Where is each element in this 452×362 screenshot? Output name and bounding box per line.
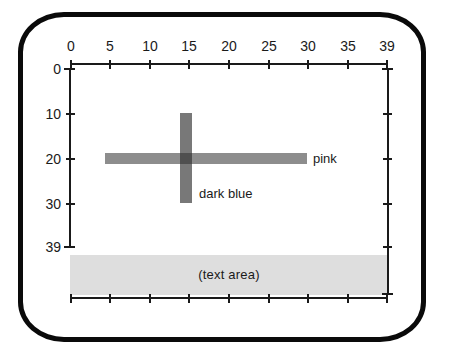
- left-axis-tick-label: 0: [27, 61, 61, 77]
- text-area-band: (text area): [70, 255, 388, 295]
- right-axis-tick: [383, 158, 392, 160]
- right-axis-tick: [383, 113, 392, 115]
- right-axis-line: [387, 68, 389, 295]
- top-axis-tick: [347, 60, 349, 69]
- bottom-axis-tick: [188, 294, 190, 303]
- left-axis-tick-label: 20: [27, 151, 61, 167]
- top-axis-tick-label: 20: [214, 38, 244, 54]
- top-axis-tick: [188, 60, 190, 69]
- left-axis-tick: [66, 113, 75, 115]
- bottom-axis-tick: [70, 294, 72, 303]
- bottom-axis-tick: [268, 294, 270, 303]
- bottom-axis-tick: [386, 294, 388, 303]
- right-axis-tick: [383, 203, 392, 205]
- top-axis-tick-label: 35: [333, 38, 363, 54]
- series-intersection: [180, 153, 192, 164]
- left-axis-tick-label: 30: [27, 196, 61, 212]
- top-axis-tick-label: 39: [372, 38, 402, 54]
- top-axis-tick: [149, 60, 151, 69]
- left-axis-tick-label: 39: [27, 239, 61, 255]
- screenshot-root: 0 5 10 15 20 25 30 35 39 0 10 20 30 39 (…: [0, 0, 452, 362]
- top-axis-tick: [228, 60, 230, 69]
- annotation-pink: pink: [313, 151, 337, 166]
- top-axis-tick-label: 5: [95, 38, 125, 54]
- series-bar-pink: [105, 153, 307, 164]
- top-axis-tick: [268, 60, 270, 69]
- top-axis-tick: [109, 60, 111, 69]
- left-axis-tick: [66, 68, 75, 70]
- right-axis-tick: [383, 246, 392, 248]
- bottom-axis-tick: [228, 294, 230, 303]
- bottom-axis-tick: [347, 294, 349, 303]
- annotation-dark-blue: dark blue: [199, 186, 252, 201]
- left-axis-tick: [66, 246, 75, 248]
- bottom-axis-tick: [109, 294, 111, 303]
- top-axis-tick-label: 15: [174, 38, 204, 54]
- top-axis-tick-label: 25: [254, 38, 284, 54]
- bottom-axis-tick: [149, 294, 151, 303]
- left-axis-tick: [66, 203, 75, 205]
- top-axis-tick-label: 10: [135, 38, 165, 54]
- top-axis-tick-label: 0: [56, 38, 86, 54]
- top-axis-tick: [307, 60, 309, 69]
- right-axis-cap-top: [382, 68, 393, 70]
- text-area-label: (text area): [70, 255, 388, 295]
- bottom-axis-tick: [307, 294, 309, 303]
- left-axis-tick: [66, 158, 75, 160]
- top-axis-tick-label: 30: [293, 38, 323, 54]
- left-axis-tick-label: 10: [27, 106, 61, 122]
